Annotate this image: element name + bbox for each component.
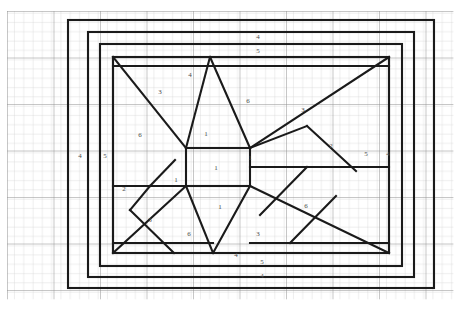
dimension-label-center-top-1: 1 xyxy=(204,131,208,138)
dimension-label-bottom-inner-5: 5 xyxy=(260,259,264,266)
dimension-label-right-outer-4: 4 xyxy=(386,151,390,158)
dimension-label-right-inner-5: 5 xyxy=(364,151,368,158)
dimension-label-upper-mid-6: 6 xyxy=(246,98,250,105)
dimension-label-lower-left-3: 3 xyxy=(148,217,152,224)
dimension-label-center-left-1: 1 xyxy=(174,177,178,184)
dimension-label-upper-left-3: 3 xyxy=(158,89,162,96)
apex-bottom-right xyxy=(213,186,250,253)
dimension-label-bottom-panel-4: 4 xyxy=(234,252,238,259)
brace-left-wedge-down xyxy=(130,186,150,210)
diagram-canvas: 4543663245541111123663454 xyxy=(0,0,459,316)
dimension-label-center-mid-1: 1 xyxy=(214,165,218,172)
dimension-label-right-2: 2 xyxy=(329,143,333,150)
brace-tr xyxy=(250,57,389,148)
dimension-label-top-outer: 4 xyxy=(256,34,260,41)
apex-top-right xyxy=(210,57,250,148)
dimension-label-lower-left-6: 6 xyxy=(187,231,191,238)
brace-tl xyxy=(113,57,186,148)
dimension-label-top-inner: 5 xyxy=(256,48,260,55)
dimension-label-lower-left-2: 2 xyxy=(122,186,126,193)
dimension-label-lower-right-6: 6 xyxy=(304,203,308,210)
dimension-label-top-left-panel: 4 xyxy=(188,72,192,79)
brace-right-lower-diag2 xyxy=(290,196,336,243)
dimension-label-left-inner-5: 5 xyxy=(103,153,107,160)
dimension-label-center-right-1: 1 xyxy=(248,155,252,162)
dimension-label-lower-mid-3: 3 xyxy=(256,231,260,238)
dimension-label-left-outer-4: 4 xyxy=(78,153,82,160)
dimension-label-upper-left-6: 6 xyxy=(138,132,142,139)
dimension-label-upper-right-3: 3 xyxy=(301,107,305,114)
brace-left-wedge-up xyxy=(150,160,175,186)
dimension-label-center-low-1: 1 xyxy=(218,204,222,211)
brace-right-lower-diag xyxy=(260,167,307,215)
construction-diagram xyxy=(0,0,459,316)
dimension-label-bottom-outer-4: 4 xyxy=(260,273,264,280)
